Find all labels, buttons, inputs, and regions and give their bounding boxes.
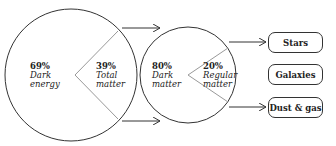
regular-matter-label: 20% Regular matter: [203, 62, 237, 89]
total-matter-text-2: matter: [96, 80, 125, 89]
dark-matter-text-2: matter: [152, 80, 181, 89]
dark-matter-label: 80% Dark matter: [152, 62, 181, 89]
total-matter-label: 39% Total matter: [96, 62, 125, 89]
galaxies-box: Galaxies: [268, 64, 323, 85]
arrows: [122, 28, 266, 121]
regular-matter-text-2: matter: [203, 80, 237, 89]
dark-energy-text-2: energy: [30, 80, 60, 89]
dark-energy-label: 69% Dark energy: [30, 62, 60, 89]
stars-box: Stars: [268, 32, 323, 53]
dust-gas-box: Dust & gas: [268, 97, 323, 118]
